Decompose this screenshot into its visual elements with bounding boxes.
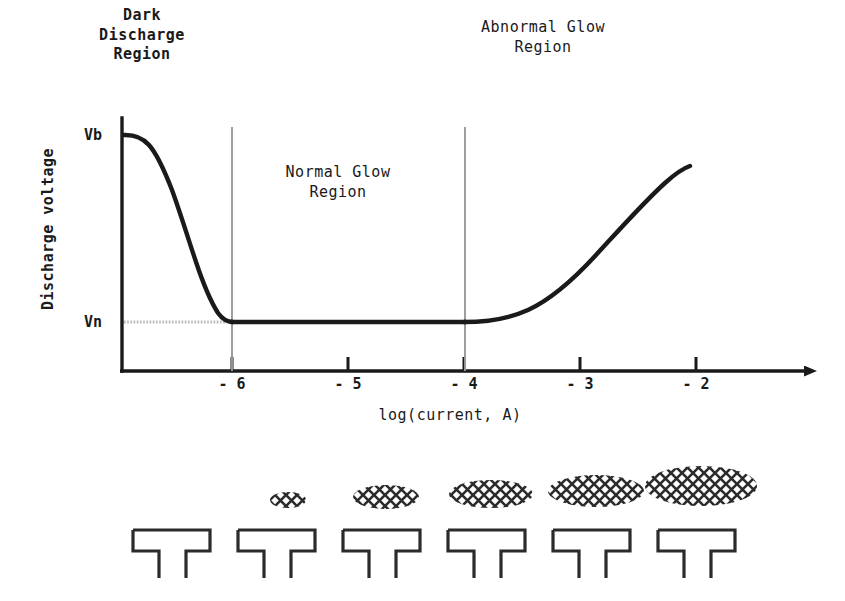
vn-axis-label: Vn: [58, 313, 102, 331]
curve-abnormal-glow-branch: [464, 166, 690, 322]
glow-region: [270, 492, 306, 508]
x-tick-label--6: - 6: [212, 375, 252, 393]
electrode-outline: [553, 530, 630, 578]
glow-region: [548, 475, 644, 507]
electrode-outline: [133, 530, 210, 578]
x-tick-label--2: - 2: [676, 375, 716, 393]
electrode-outline: [658, 530, 735, 578]
electrode-diagram: [133, 466, 757, 578]
glow-region: [353, 485, 419, 509]
plot-axes: [120, 118, 805, 371]
x-tick-label--3: - 3: [560, 375, 600, 393]
electrode-figure-3: [343, 485, 420, 578]
y-axis-title: Discharge voltage: [39, 119, 57, 339]
electrode-outline: [238, 530, 315, 578]
x-tick-label--4: - 4: [444, 375, 484, 393]
x-tick-label--5: - 5: [328, 375, 368, 393]
abnormal-glow-region-label: Abnormal Glow Region: [428, 18, 658, 57]
electrode-figure-4: [448, 480, 533, 578]
electrode-figure-6: [645, 466, 757, 578]
electrode-figure-2: [238, 492, 315, 578]
electrode-figure-1: [133, 530, 210, 578]
vb-axis-label: Vb: [58, 126, 102, 144]
electrode-figure-5: [548, 475, 644, 578]
glow-discharge-characteristic-figure: [0, 0, 845, 601]
x-axis-title: log(current, A): [270, 406, 630, 424]
glow-region: [645, 466, 757, 506]
normal-glow-region-label: Normal Glow Region: [238, 163, 438, 202]
x-axis-ticks: [232, 357, 696, 371]
glow-region: [449, 480, 533, 508]
curve-dark-discharge-branch: [123, 135, 233, 322]
electrode-outline: [343, 530, 420, 578]
dark-discharge-region-label: Dark Discharge Region: [42, 6, 242, 65]
electrode-outline: [448, 530, 525, 578]
